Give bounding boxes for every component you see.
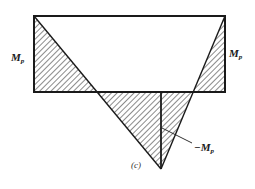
right-moment-subscript: p [239,53,243,61]
left-moment-subscript: p [21,57,25,65]
left-moment-symbol: M [11,51,21,63]
left-moment-label: Mp [11,48,24,65]
moment-diagram [0,0,255,189]
lower-hatched-region [97,92,193,169]
bottom-moment-subscript: p [210,147,214,155]
bottom-moment-symbol: −M [194,141,210,153]
bottom-moment-label: −Mp [194,138,214,155]
right-moment-symbol: M [229,47,239,59]
figure-caption: (c) [131,161,141,170]
right-moment-label: Mp [229,44,242,61]
